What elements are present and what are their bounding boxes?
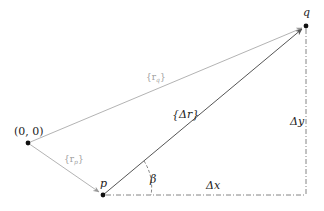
- vector-diagram: (0, 0) p q {rq} {rp} {Δr} Δx Δy β: [0, 0, 324, 211]
- delta-r-label: {Δr}: [172, 108, 199, 121]
- beta-label: β: [149, 173, 156, 186]
- q-label: q: [303, 6, 310, 19]
- vector-r-p-line: [28, 143, 99, 192]
- p-point: [101, 193, 106, 198]
- q-point: [304, 24, 309, 29]
- r-p-label: {rp}: [64, 154, 84, 166]
- r-q-label: {rq}: [146, 72, 166, 84]
- delta-x-label: Δx: [205, 179, 221, 192]
- delta-y-label: Δy: [289, 115, 305, 128]
- p-label: p: [100, 177, 107, 190]
- vector-r-q-line: [28, 28, 302, 143]
- origin-label: (0, 0): [14, 125, 44, 138]
- origin-point: [26, 141, 31, 146]
- vector-delta-r-line: [103, 29, 302, 195]
